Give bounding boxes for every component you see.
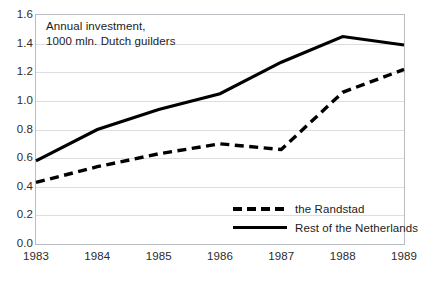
x-tick-label: 1983	[13, 250, 59, 262]
y-tick-label: 1.6	[2, 9, 33, 20]
x-tick-label: 1988	[320, 250, 366, 262]
x-tick-label: 1985	[136, 250, 182, 262]
legend-swatch-dashed-icon	[233, 203, 287, 214]
chart-title-line-2: 1000 mln. Dutch guilders	[46, 34, 176, 49]
x-tick-label: 1984	[74, 250, 120, 262]
y-tick-label: 1.4	[2, 38, 33, 49]
chart-title-line-1: Annual investment,	[46, 19, 176, 34]
y-tick-label: 0.6	[2, 152, 33, 163]
x-tick-label: 1989	[381, 250, 423, 262]
legend-label-randstad: the Randstad	[295, 203, 365, 215]
series-line-the-randstad	[36, 69, 404, 182]
y-tick-label: 0.8	[2, 124, 33, 135]
y-tick-label: 0.4	[2, 181, 33, 192]
legend-item-randstad: the Randstad	[233, 199, 418, 218]
y-tick-label: 1.0	[2, 95, 33, 106]
y-axis: 0.00.20.40.60.81.01.21.41.6	[0, 0, 33, 282]
y-tick-label: 0.0	[2, 238, 33, 249]
x-tick-label: 1987	[258, 250, 304, 262]
x-tick-label: 1986	[197, 250, 243, 262]
legend: the Randstad Rest of the Netherlands	[233, 199, 418, 237]
y-tick-label: 0.2	[2, 209, 33, 220]
series-line-rest-of-the-netherlands	[36, 36, 404, 161]
chart-title: Annual investment, 1000 mln. Dutch guild…	[46, 19, 176, 48]
x-axis: 1983198419851986198719881989	[35, 250, 405, 270]
legend-item-rest-of-netherlands: Rest of the Netherlands	[233, 218, 418, 237]
y-tick-label: 1.2	[2, 66, 33, 77]
legend-label-rest-of-netherlands: Rest of the Netherlands	[295, 222, 418, 234]
legend-swatch-solid-icon	[233, 222, 287, 233]
plot-area: Annual investment, 1000 mln. Dutch guild…	[35, 14, 405, 245]
